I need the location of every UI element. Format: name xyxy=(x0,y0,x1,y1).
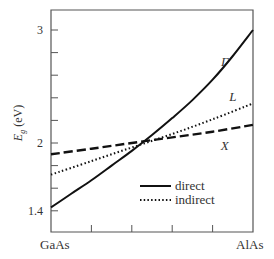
y-tick-label: 1.4 xyxy=(28,204,43,218)
legend-label-direct: direct xyxy=(175,178,205,193)
y-axis: 321.4 xyxy=(28,23,58,218)
curve-label-gamma: Γ xyxy=(220,54,229,69)
curve-label-x: X xyxy=(220,138,230,153)
y-tick-label: 2 xyxy=(37,136,43,150)
bandgap-chart: 321.4 ΓLX direct indirect Eg(eV) GaAs Al… xyxy=(0,0,274,259)
legend-label-indirect: indirect xyxy=(175,192,215,207)
plot-frame xyxy=(51,10,253,232)
x-axis xyxy=(91,225,212,232)
curve-labels: ΓLX xyxy=(220,54,237,153)
y-tick-label: 3 xyxy=(37,23,43,37)
x-label-left: GaAs xyxy=(40,237,70,252)
y-axis-title-sub: g xyxy=(18,130,27,134)
y-axis-title: Eg(eV) xyxy=(11,105,27,142)
plot-border xyxy=(51,10,253,232)
svg-text:Eg(eV): Eg(eV) xyxy=(11,105,27,142)
y-axis-title-unit: (eV) xyxy=(11,105,25,127)
legend: direct indirect xyxy=(140,178,215,207)
x-label-right: AlAs xyxy=(236,237,263,252)
curve-label-l: L xyxy=(228,89,236,104)
